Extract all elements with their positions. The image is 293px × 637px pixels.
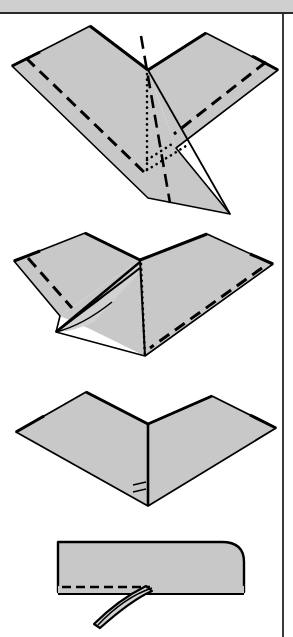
step-4-rounded-body: [58, 542, 244, 592]
step-4-diagram: [0, 528, 293, 637]
step-1-diagram: [0, 18, 293, 223]
origami-diagram-page: [0, 0, 293, 637]
step-3-left-panel: [16, 392, 148, 506]
step-3-right-panel: [148, 396, 276, 506]
step-2-diagram: [0, 228, 293, 368]
step-3-diagram: [0, 378, 293, 518]
header-band: [0, 0, 293, 14]
